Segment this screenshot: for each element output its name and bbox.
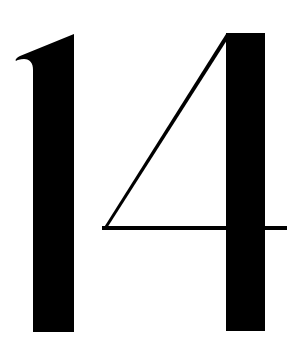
numeral-graphic: [0, 0, 299, 354]
numeral-display: 14: [0, 0, 299, 354]
